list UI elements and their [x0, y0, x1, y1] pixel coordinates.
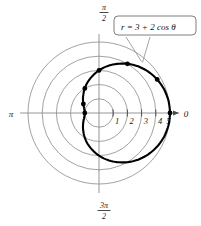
tick-label-4: 4 — [158, 116, 163, 126]
data-point — [155, 77, 160, 82]
callout-leader — [126, 37, 150, 63]
axis-label-pi-over-2-numerator: π — [102, 3, 107, 12]
tick-label-1: 1 — [115, 116, 119, 126]
axis-label-pi-over-2-denominator: 2 — [102, 14, 106, 23]
axis-label-3pi-over-2-numerator: 3π — [99, 201, 109, 210]
axis-label-zero: 0 — [184, 109, 189, 119]
equation-callout: r = 3 + 2 cos θ — [114, 16, 196, 35]
axis-label-3pi-over-2: 3π 2 — [98, 201, 111, 221]
leader-line-right — [143, 37, 151, 63]
data-point — [81, 102, 86, 107]
polar-plot-canvas: 1 2 3 4 5 r = 3 + 2 cos θ 0 π — [0, 0, 201, 226]
polar-plot-figure: 1 2 3 4 5 r = 3 + 2 cos θ 0 π — [0, 0, 201, 226]
axis-label-pi: π — [9, 109, 14, 119]
axis-label-3pi-over-2-denominator: 2 — [102, 212, 106, 221]
data-point — [125, 61, 130, 66]
data-point — [168, 111, 173, 116]
axis-label-pi-over-2: π 2 — [100, 3, 109, 23]
leader-line-left — [126, 37, 142, 62]
polar-axes — [20, 34, 179, 193]
equation-label: r = 3 + 2 cos θ — [121, 22, 176, 32]
radial-tick-labels: 1 2 3 4 5 — [115, 116, 171, 126]
tick-label-2: 2 — [130, 116, 135, 126]
data-point — [82, 111, 87, 116]
data-point — [82, 86, 87, 91]
polar-axis-arrowhead — [173, 111, 179, 116]
tick-label-3: 3 — [143, 116, 148, 126]
data-point — [97, 68, 102, 73]
